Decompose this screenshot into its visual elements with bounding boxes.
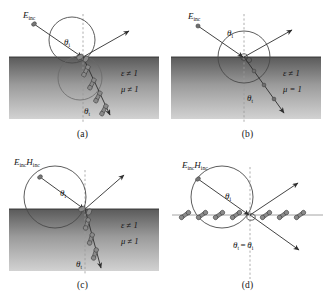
angle-relation-label-d: θt=θi (233, 240, 254, 251)
incident-ray-d (198, 179, 249, 215)
medium-permeability-label-c: μ ≠ 1 (120, 236, 139, 246)
angle-incidence-label-c: θi (60, 188, 66, 199)
angle-incidence-label-a: θi (64, 37, 70, 48)
incident-field-label-b: Einc (187, 11, 201, 22)
reflected-ray-d (250, 183, 298, 215)
reflected-ray-b (244, 30, 292, 57)
angle-incidence-label-d: θi (225, 191, 231, 202)
reflected-ray-a (83, 31, 129, 57)
panel-caption-b: (b) (165, 129, 330, 139)
medium-permittivity-label-c: ε ≠ 1 (121, 220, 138, 230)
incident-dipole-marker-a (31, 21, 37, 27)
figure-root: Einc θi θt ε ≠ 1 μ ≠ 1 (a) (0, 0, 330, 303)
medium-permittivity-label-a: ε ≠ 1 (121, 68, 138, 78)
panel-caption-d: (d) (165, 280, 330, 290)
medium-permittivity-label-b: ε ≠ 1 (283, 68, 300, 78)
incident-field-label-a: Einc (22, 10, 36, 21)
panel-caption-a: (a) (0, 129, 165, 139)
medium-permeability-label-a: μ ≠ 1 (120, 84, 139, 94)
incident-fields-label-d: EincHinc (181, 160, 208, 171)
incident-ray-a (34, 24, 82, 57)
incident-dot-marker-b (196, 24, 200, 28)
angle-incidence-label-b: θi (227, 28, 233, 39)
incident-ray-b (198, 26, 243, 57)
panel-caption-c: (c) (0, 280, 165, 290)
transmitted-ray-d (250, 215, 299, 250)
reflected-ray-c (85, 175, 124, 209)
medium-permeability-label-b: μ = 1 (282, 84, 302, 94)
incident-fields-label-c: EincHinc (13, 157, 40, 168)
